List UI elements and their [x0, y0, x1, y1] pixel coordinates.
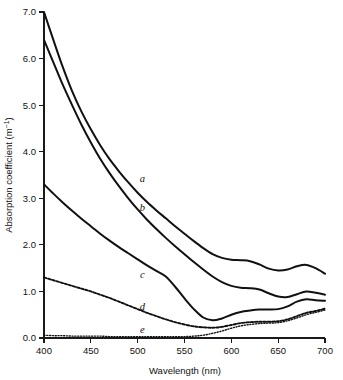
x-tick-label: 450	[83, 345, 99, 356]
curve-label-d: d	[140, 301, 146, 312]
cropped-caption-remnant	[60, 0, 260, 3]
x-tick-label: 500	[130, 345, 146, 356]
chart-canvas: 0.01.02.03.04.05.06.07.0 400450500550600…	[0, 0, 343, 380]
x-tick-label: 600	[223, 345, 239, 356]
y-tick-label: 4.0	[23, 146, 36, 157]
x-axis-title: Wavelength (nm)	[149, 365, 221, 376]
x-tick-label: 400	[36, 345, 52, 356]
curve-label-c: c	[140, 269, 145, 280]
y-tick-label: 5.0	[23, 100, 36, 111]
x-tick-label: 700	[317, 345, 333, 356]
x-tick-label: 550	[177, 345, 193, 356]
curve-label-b: b	[140, 202, 145, 213]
absorption-spectrum-figure: 0.01.02.03.04.05.06.07.0 400450500550600…	[0, 0, 343, 380]
y-tick-label: 7.0	[23, 6, 36, 17]
y-tick-label: 0.0	[23, 332, 36, 343]
y-tick-label: 2.0	[23, 239, 36, 250]
curve-label-e: e	[140, 324, 145, 335]
curve-label-a: a	[140, 173, 145, 184]
x-tick-label: 650	[270, 345, 286, 356]
y-tick-label: 3.0	[23, 193, 36, 204]
y-axis-title: Absorption coefficient (m−1)	[3, 117, 15, 233]
y-tick-label: 6.0	[23, 53, 36, 64]
y-tick-label: 1.0	[23, 286, 36, 297]
